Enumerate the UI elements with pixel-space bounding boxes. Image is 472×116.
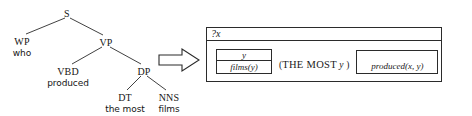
diagram-canvas: S WP who VP VBD produced DP DT the most … — [0, 0, 472, 116]
tree-terminal-the-most: the most — [105, 104, 144, 114]
tree-node-s: S — [64, 8, 70, 19]
tree-node-wp-label: WP — [13, 36, 31, 47]
tree-terminal-who: who — [13, 48, 31, 58]
tree-edge-dp-dt — [127, 76, 141, 90]
right-block-arrow-icon — [158, 48, 200, 72]
drs-films-subbox: y films(y) — [216, 49, 272, 74]
tree-node-dp-label: DP — [137, 66, 150, 77]
tree-node-dt-label: DT — [105, 92, 144, 103]
drs-produced-subbox: produced(x, y) — [356, 50, 438, 74]
drs-header: ?x — [207, 28, 441, 41]
tree-node-vbd: VBD produced — [47, 66, 89, 88]
drs-produced-condition: produced(x, y) — [371, 62, 423, 71]
tree-node-nns-label: NNS — [158, 92, 179, 103]
drs-quantifier: (THE MOST y ) — [272, 59, 356, 70]
tree-terminal-produced: produced — [47, 78, 89, 88]
drs-films-condition: films(y) — [217, 61, 271, 73]
quantifier-close-paren: ) — [346, 60, 349, 70]
tree-edge-vp-vbd — [72, 47, 102, 64]
tree-edge-s-vp — [70, 18, 103, 35]
tree-node-dt: DT the most — [105, 92, 144, 114]
tree-terminal-films: films — [158, 104, 179, 114]
drs-films-referent: y — [217, 50, 271, 61]
tree-node-wp: WP who — [13, 36, 31, 58]
tree-edge-vp-dp — [110, 47, 141, 64]
tree-node-vp: VP — [99, 37, 112, 48]
tree-edge-dp-nns — [147, 76, 166, 90]
tree-node-dp: DP — [137, 66, 150, 77]
tree-node-s-label: S — [64, 8, 70, 19]
drs-discourse-referent: ?x — [211, 29, 220, 39]
tree-node-vp-label: VP — [99, 37, 112, 48]
tree-node-nns: NNS films — [158, 92, 179, 114]
drs-box: ?x y films(y) (THE MOST y ) produced(x, … — [206, 27, 442, 82]
tree-edge-s-wp — [26, 18, 65, 34]
quantifier-variable: y — [339, 60, 343, 70]
tree-node-vbd-label: VBD — [47, 66, 89, 77]
drs-body: y films(y) (THE MOST y ) produced(x, y) — [207, 41, 441, 82]
quantifier-operator: THE MOST — [282, 59, 337, 70]
